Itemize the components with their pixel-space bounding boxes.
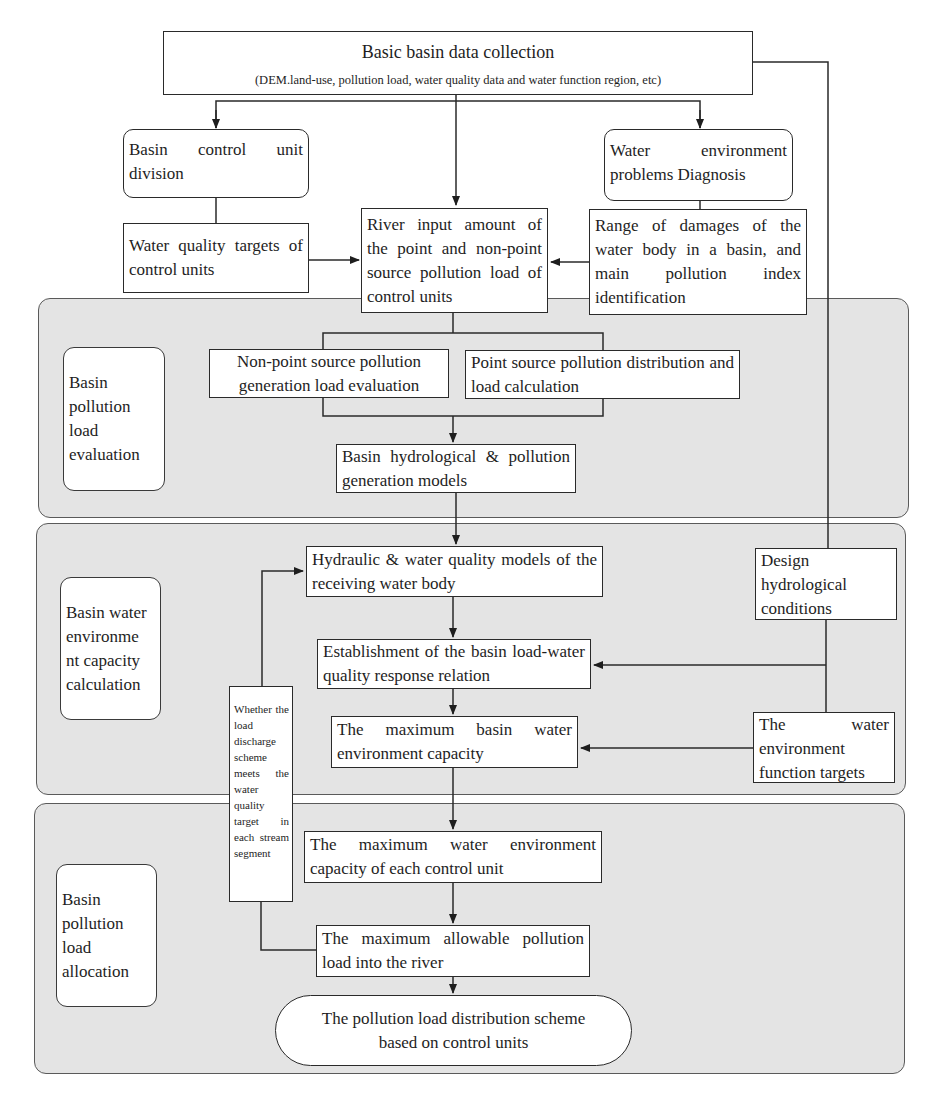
river-input-box: River input amount of the point and non-… bbox=[361, 208, 548, 313]
hydro-pollution-models-box: Basin hydrological & pollution generatio… bbox=[336, 444, 576, 493]
control-unit-division-box: Basin control unit division bbox=[123, 129, 309, 198]
point-source-box: Point source pollution distribution and … bbox=[465, 350, 740, 399]
hydraulic-models-box: Hydraulic & water quality models of the … bbox=[306, 546, 603, 597]
label-load-evaluation: Basin pollution load evaluation bbox=[63, 347, 165, 491]
basic-data-collection-box: Basic basin data collection (DEM.land-us… bbox=[163, 31, 753, 95]
basic-data-title: Basic basin data collection bbox=[164, 40, 752, 64]
range-damages-box: Range of damages of the water body in a … bbox=[589, 209, 807, 315]
max-unit-capacity-box: The maximum water environment capacity o… bbox=[304, 831, 602, 883]
label-capacity-calculation: Basin water environme nt capacity calcul… bbox=[60, 577, 161, 720]
basic-data-subtitle: (DEM.land-use, pollution load, water qua… bbox=[164, 68, 752, 92]
feedback-condition-box: Whether the load discharge scheme meets … bbox=[229, 686, 293, 902]
nonpoint-source-box: Non-point source pollution generation lo… bbox=[209, 349, 449, 398]
water-quality-targets-box: Water quality targets of control units bbox=[123, 223, 309, 293]
function-targets-box: The water environment function targets bbox=[753, 712, 895, 783]
max-allowable-load-box: The maximum allowable pollution load int… bbox=[316, 925, 590, 977]
distribution-scheme-text: The pollution load distribution scheme b… bbox=[319, 1007, 589, 1055]
water-env-diagnosis-box: Water environment problems Diagnosis bbox=[604, 129, 793, 201]
distribution-scheme-terminal: The pollution load distribution scheme b… bbox=[275, 995, 632, 1066]
establishment-response-box: Establishment of the basin load-water qu… bbox=[317, 639, 591, 689]
label-load-allocation: Basin pollution load allocation bbox=[56, 864, 157, 1007]
design-hydrological-box: Design hydrological conditions bbox=[755, 548, 897, 620]
max-basin-capacity-box: The maximum basin water environment capa… bbox=[331, 716, 578, 768]
